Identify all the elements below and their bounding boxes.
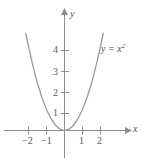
curve-equation-label: y = x2 [101, 44, 125, 54]
y-axis-arrowhead [61, 8, 68, 15]
x-axis-name: x [133, 124, 137, 134]
x-tick-label--2: −2 [22, 136, 33, 146]
y-tick-label-2: 2 [53, 88, 58, 98]
curve-equation-base: y = x [101, 43, 122, 54]
x-axis-arrowhead [125, 127, 132, 134]
y-tick-label-4: 4 [53, 45, 58, 55]
x-tick-label--1: −1 [41, 136, 52, 146]
x-tick-label-1: 1 [79, 136, 84, 146]
curve-equation-exponent: 2 [122, 42, 126, 50]
x-tick-label-2: 2 [97, 136, 102, 146]
y-tick-label-3: 3 [53, 67, 58, 77]
y-axis-name: y [70, 9, 74, 19]
y-tick-label-1: 1 [53, 108, 58, 118]
parabola-figure: −2 −1 1 2 1 2 3 4 x y y = x2 [0, 0, 146, 163]
